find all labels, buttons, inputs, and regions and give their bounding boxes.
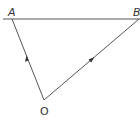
vector-diagram: A B O <box>0 0 140 122</box>
point-label-a: A <box>7 6 16 19</box>
point-label-o: O <box>40 105 49 118</box>
point-label-b: B <box>133 6 140 19</box>
